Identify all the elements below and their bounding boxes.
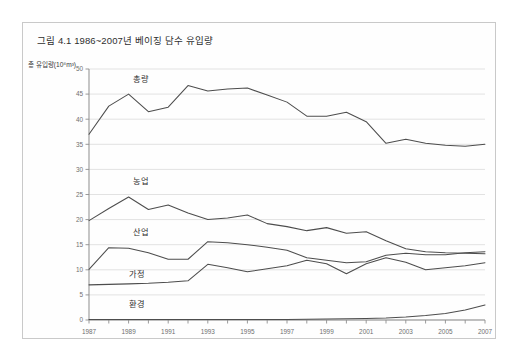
series-label-환경: 환경 [129, 299, 145, 309]
x-tick-label: 1997 [280, 328, 295, 335]
gridlines [89, 69, 485, 320]
x-tick-label: 1987 [82, 328, 97, 335]
series-label-총량: 총량 [133, 74, 149, 84]
x-tick-label: 1993 [201, 328, 216, 335]
y-tick-label: 10 [76, 266, 84, 273]
series-line-산업 [89, 242, 485, 270]
x-axis-ticks: 1987198919911993199519971999200120032005… [82, 320, 493, 335]
y-tick-label: 20 [76, 216, 84, 223]
y-tick-label: 40 [76, 116, 84, 123]
figure-container: 그림 4.1 1986~2007년 베이징 담수 유입량 총 유입량(10⁸m³… [22, 22, 496, 339]
x-tick-label: 1989 [121, 328, 136, 335]
y-tick-label: 50 [76, 65, 84, 72]
series-line-환경 [89, 305, 485, 320]
y-tick-label: 35 [76, 141, 84, 148]
x-tick-label: 2007 [478, 328, 493, 335]
x-tick-label: 1999 [319, 328, 334, 335]
y-tick-label: 0 [79, 316, 83, 323]
x-tick-label: 2001 [359, 328, 374, 335]
y-tick-label: 5 [79, 291, 83, 298]
series-label-산업: 산업 [133, 227, 149, 237]
y-tick-label: 45 [76, 90, 84, 97]
x-tick-label: 2005 [438, 328, 453, 335]
series-line-총량 [89, 86, 485, 147]
y-axis-ticks: 05101520253035404550 [76, 65, 89, 323]
x-tick-label: 1991 [161, 328, 176, 335]
data-series [89, 86, 485, 320]
line-chart: 05101520253035404550 1987198919911993199… [23, 23, 497, 340]
y-tick-label: 15 [76, 241, 84, 248]
series-label-농업: 농업 [133, 177, 149, 186]
y-tick-label: 25 [76, 191, 84, 198]
series-line-농업 [89, 197, 485, 254]
series-label-가정: 가정 [129, 269, 145, 279]
y-tick-label: 30 [76, 166, 84, 173]
series-line-가정 [89, 258, 485, 285]
x-tick-label: 1995 [240, 328, 255, 335]
x-tick-label: 2003 [399, 328, 414, 335]
